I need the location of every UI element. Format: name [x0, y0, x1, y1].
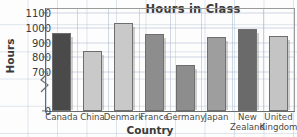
bar-shadow	[70, 37, 73, 110]
plot-frame-right	[294, 8, 295, 112]
bar[interactable]	[269, 36, 288, 111]
category-gridline	[77, 8, 78, 111]
x-tick-label: United Kingdom	[256, 113, 297, 132]
bar-slot	[52, 8, 71, 111]
bars-area	[46, 8, 294, 111]
bar-shadow	[163, 38, 166, 110]
bar-slot	[83, 8, 102, 111]
bar-slot	[145, 8, 164, 111]
bar-slot	[207, 8, 226, 111]
bar[interactable]	[83, 51, 102, 111]
bar[interactable]	[207, 37, 226, 111]
bar-chart: Hours in Class Hours Country 11001000900…	[0, 0, 297, 137]
x-axis-tick-labels: CanadaChinaDenmarkFranceGermanyJapanNew …	[46, 113, 294, 135]
category-gridline	[201, 8, 202, 111]
bar-shadow	[287, 40, 290, 110]
bar[interactable]	[238, 29, 257, 112]
category-gridline	[139, 8, 140, 111]
bar-slot	[269, 8, 288, 111]
category-gridline	[108, 8, 109, 111]
bar-shadow	[194, 69, 197, 110]
bar[interactable]	[114, 23, 133, 111]
bar-shadow	[132, 27, 135, 110]
category-gridline	[170, 8, 171, 111]
y-axis-label: Hours	[4, 30, 16, 82]
bar[interactable]	[52, 33, 71, 111]
category-gridline	[263, 8, 264, 111]
bar-shadow	[225, 41, 228, 110]
category-gridline	[46, 8, 47, 111]
bar[interactable]	[176, 65, 195, 111]
category-gridline	[232, 8, 233, 111]
bar-shadow	[256, 33, 259, 111]
bar-slot	[238, 8, 257, 111]
bar-shadow	[101, 55, 104, 110]
bar[interactable]	[145, 34, 164, 111]
bar-slot	[114, 8, 133, 111]
bar-slot	[176, 8, 195, 111]
